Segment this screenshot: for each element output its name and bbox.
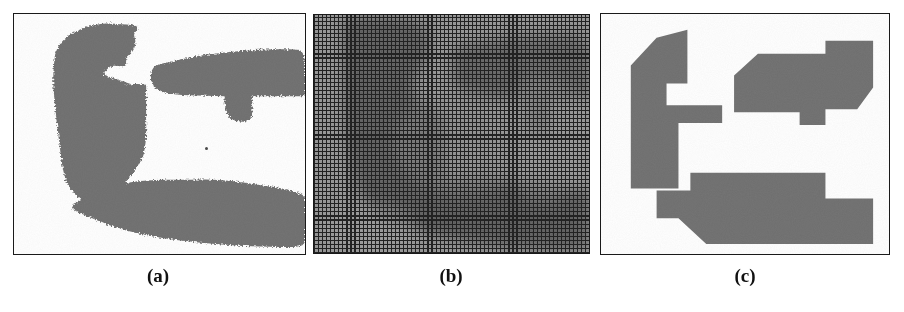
panel-a-caption: (a) xyxy=(118,266,198,285)
panel-c-mask xyxy=(601,14,889,254)
figure-container: (a) xyxy=(0,0,904,312)
panel-b-caption: (b) xyxy=(411,266,491,285)
panel-c xyxy=(600,13,890,255)
panel-c-caption: (c) xyxy=(705,266,785,285)
panel-b xyxy=(313,14,590,254)
panel-a-mask xyxy=(14,14,305,254)
panel-a-marker-dot xyxy=(205,147,208,150)
panel-b-image xyxy=(314,15,589,253)
panel-b-intensity-field xyxy=(314,15,589,253)
panel-a xyxy=(13,13,306,255)
